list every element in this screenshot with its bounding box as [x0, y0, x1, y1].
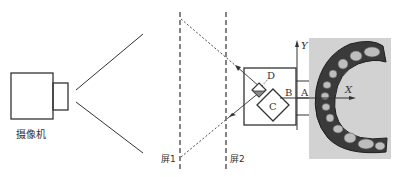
- label-c: C: [269, 101, 277, 112]
- y-axis-arrow: [295, 40, 299, 47]
- label-x: X: [344, 84, 353, 95]
- label-a: A: [300, 87, 309, 98]
- label-d: D: [267, 70, 275, 81]
- label-b: B: [285, 87, 292, 98]
- screen-1-label: 屏1: [161, 154, 176, 164]
- camera-label: 摄像机: [16, 128, 46, 140]
- arrowhead-lower: [229, 113, 236, 117]
- field-of-view-lines: [76, 34, 143, 153]
- screen-2-label: 屏2: [230, 154, 245, 164]
- label-y: Y: [301, 40, 309, 51]
- camera-icon: [11, 73, 68, 119]
- reflection-rays: [181, 19, 260, 157]
- optical-setup-diagram: 摄像机 屏1 屏2 C D B: [0, 0, 395, 177]
